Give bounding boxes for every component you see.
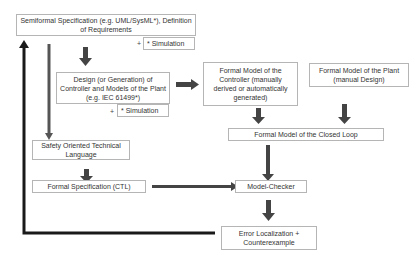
safety-language-box: Safety Oriented Technical Language [32,140,130,160]
arrow-formalspec-to-modelchecker [152,182,238,191]
simulation-label-2: * Simulation [121,106,158,115]
plus-sign-1: + [137,40,141,47]
model-checker-label: Model-Checker [247,182,294,191]
arrow-design-to-controller [176,79,199,90]
plus-sign-2: + [110,108,114,115]
formal-model-closed-loop-label: Formal Model of the Closed Loop [254,130,358,139]
formal-model-plant-label: Formal Model of the Plant (manual Design… [313,66,405,84]
design-generation-box: Design (or Generation) of Controller and… [56,72,170,104]
formal-spec-ctl-box: Formal Specification (CTL) [32,180,146,193]
safety-language-label: Safety Oriented Technical Language [36,141,126,159]
formal-model-controller-box: Formal Model of the Controller (manually… [203,62,298,106]
arrow-semiformal-to-design [79,47,92,66]
arrow-semiformal-to-safety [45,44,53,140]
formal-model-plant-box: Formal Model of the Plant (manual Design… [309,63,409,87]
error-localization-box: Error Localization + Counterexample [221,226,317,250]
model-checker-box: Model-Checker [235,180,307,193]
formal-spec-ctl-label: Formal Specification (CTL) [47,182,130,191]
error-localization-label: Error Localization + Counterexample [225,229,313,247]
formal-model-controller-label: Formal Model of the Controller (manually… [207,66,294,102]
simulation-box-1: * Simulation [143,37,195,50]
arrow-plant-to-closedloop [338,104,351,124]
arrow-controller-to-closedloop [252,108,265,124]
simulation-box-2: * Simulation [117,104,169,117]
arrow-modelchecker-to-error [262,200,275,221]
semiformal-spec-box: Semiformal Specification (e.g. UML/SysML… [16,14,196,36]
arrow-closedloop-to-modelchecker [262,145,274,181]
simulation-label-1: * Simulation [147,39,184,48]
design-generation-label: Design (or Generation) of Controller and… [60,75,166,102]
formal-model-closed-loop-box: Formal Model of the Closed Loop [228,128,384,141]
semiformal-spec-label: Semiformal Specification (e.g. UML/SysML… [20,16,192,34]
